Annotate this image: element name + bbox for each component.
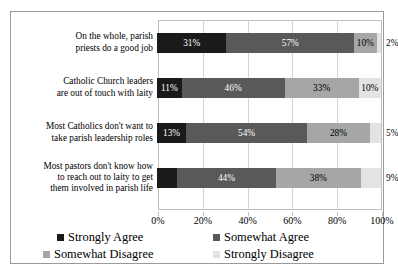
bar-segment: 28%	[307, 123, 370, 143]
bar-segment: 44%	[177, 168, 276, 188]
bar-segment: 46%	[182, 78, 285, 98]
x-axis: 0%20%40%60%80%100%	[158, 212, 382, 228]
bar-segment	[377, 33, 381, 53]
legend-item[interactable]: Strongly Agree	[57, 230, 143, 245]
stacked-bar: 11%46%33%10%	[157, 78, 381, 98]
x-axis-tick-label: 80%	[328, 215, 346, 226]
bar-segment: 10%	[354, 33, 376, 53]
bar-segment: 33%	[285, 78, 359, 98]
chart-legend: Strongly AgreeSomewhat AgreeSomewhat Dis…	[11, 230, 383, 264]
legend-label: Somewhat Agree	[224, 230, 309, 245]
bar-segment	[370, 123, 381, 143]
stacked-bar: 13%54%28%5%	[157, 123, 381, 143]
bar-segment	[361, 168, 381, 188]
bar-segment	[157, 168, 177, 188]
bar-segment: 57%	[226, 33, 354, 53]
bar-segment: 10%	[359, 78, 381, 98]
chart-category-row: Catholic Church leaders are out of touch…	[11, 65, 383, 110]
legend-label: Strongly Disagree	[224, 247, 314, 262]
bar-segment-label: 9%	[386, 168, 398, 188]
legend-item[interactable]: Strongly Disagree	[213, 247, 314, 262]
chart-category-row: Most Catholics don't want to take parish…	[11, 110, 383, 155]
chart-frame: On the whole, parish priests do a good j…	[10, 11, 384, 264]
bar-segment: 11%	[157, 78, 182, 98]
legend-item[interactable]: Somewhat Agree	[213, 230, 309, 245]
plot-area: On the whole, parish priests do a good j…	[11, 12, 383, 217]
x-axis-tick-label: 100%	[370, 215, 393, 226]
legend-swatch-icon	[213, 251, 220, 258]
chart-category-row: Most pastors don't know how to reach out…	[11, 155, 383, 200]
bar-segment: 38%	[276, 168, 361, 188]
category-label: Most pastors don't know how to reach out…	[11, 161, 157, 195]
legend-label: Strongly Agree	[68, 230, 143, 245]
legend-swatch-icon	[213, 234, 220, 241]
bar-segment: 13%	[157, 123, 186, 143]
category-label: On the whole, parish priests do a good j…	[11, 31, 157, 53]
category-label: Most Catholics don't want to take parish…	[11, 121, 157, 143]
bar-segment-label: 2%	[386, 33, 398, 53]
legend-swatch-icon	[43, 251, 50, 258]
x-axis-tick-label: 20%	[194, 215, 212, 226]
category-label: Catholic Church leaders are out of touch…	[11, 76, 157, 98]
legend-swatch-icon	[57, 234, 64, 241]
bar-segment: 54%	[186, 123, 307, 143]
x-axis-tick-label: 0%	[151, 215, 164, 226]
legend-label: Somewhat Disagree	[54, 247, 153, 262]
bar-segment: 31%	[157, 33, 226, 53]
x-axis-tick-label: 60%	[283, 215, 301, 226]
x-axis-tick-label: 40%	[238, 215, 256, 226]
legend-item[interactable]: Somewhat Disagree	[43, 247, 153, 262]
chart-category-row: On the whole, parish priests do a good j…	[11, 20, 383, 65]
stacked-bar: 9%44%38%9%	[157, 168, 381, 188]
bar-segment-label: 5%	[386, 123, 398, 143]
stacked-bar: 31%57%10%2%	[157, 33, 381, 53]
